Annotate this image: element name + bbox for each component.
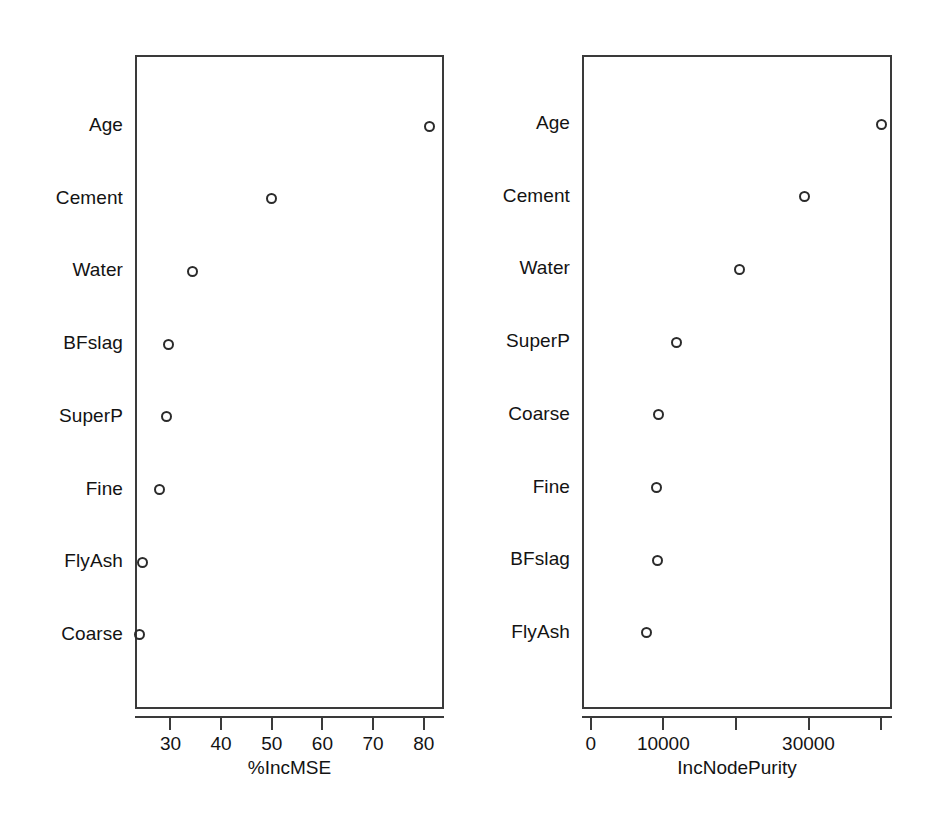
x-axis-tick (423, 718, 425, 730)
y-axis-label: Cement (56, 187, 123, 209)
y-axis-label: Age (536, 112, 570, 134)
x-axis-title-left: %IncMSE (135, 757, 444, 779)
x-axis-line (135, 716, 444, 718)
panel-incmse: AgeCementWaterBFslagSuperPFineFlyAshCoar… (0, 0, 464, 828)
x-axis-tick (662, 718, 664, 730)
y-axis-label: SuperP (59, 405, 123, 427)
x-axis-tick (321, 718, 323, 730)
y-axis-label: BFslag (510, 548, 570, 570)
y-axis-label: Fine (86, 478, 123, 500)
x-axis-tick (169, 718, 171, 730)
data-point-marker (154, 484, 165, 495)
x-axis-tick-label: 30000 (769, 733, 849, 755)
x-axis-tick (271, 718, 273, 730)
y-axis-label: Age (89, 114, 123, 136)
x-axis-tick-label: 80 (384, 733, 464, 755)
y-axis-label: Fine (533, 476, 570, 498)
x-axis-title-right: IncNodePurity (582, 757, 892, 779)
data-point-marker (876, 119, 887, 130)
data-point-marker (651, 482, 662, 493)
y-axis-label: BFslag (63, 332, 123, 354)
data-point-marker (137, 557, 148, 568)
y-axis-label: Coarse (508, 403, 570, 425)
data-point-marker (671, 337, 682, 348)
data-point-marker (424, 121, 435, 132)
y-axis-label: Coarse (61, 623, 123, 645)
data-point-marker (187, 266, 198, 277)
x-axis-tick (880, 718, 882, 730)
x-axis-tick-label: 0 (551, 733, 631, 755)
y-axis-label: Water (520, 257, 570, 279)
variable-importance-figure: AgeCementWaterBFslagSuperPFineFlyAshCoar… (0, 0, 928, 828)
plot-box-right (582, 55, 892, 709)
data-point-marker (163, 339, 174, 350)
x-axis-tick (372, 718, 374, 730)
x-axis-tick-label: 10000 (623, 733, 703, 755)
y-axis-label: FlyAsh (511, 621, 570, 643)
x-axis-tick (808, 718, 810, 730)
x-axis-tick (735, 718, 737, 730)
data-point-marker (652, 555, 663, 566)
plot-box-left (135, 55, 444, 709)
data-point-marker (734, 264, 745, 275)
y-axis-label: Water (73, 259, 123, 281)
y-axis-label: FlyAsh (64, 550, 123, 572)
x-axis-line (582, 716, 892, 718)
panel-incnodepurity: AgeCementWaterSuperPCoarseFineBFslagFlyA… (464, 0, 928, 828)
x-axis-tick (590, 718, 592, 730)
x-axis-tick (220, 718, 222, 730)
y-axis-label: SuperP (506, 330, 570, 352)
y-axis-label: Cement (503, 185, 570, 207)
